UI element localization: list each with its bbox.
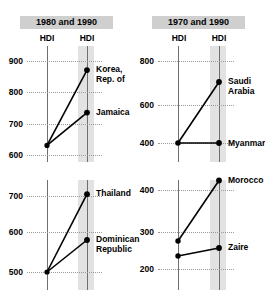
chart-column-right: 1970 and 1990 HDI HDI 800 600 400 Saudi … [132,0,264,298]
series-line-jamaica [47,113,87,146]
panel-top-left: 900 800 700 600 Korea, Rep. of Jamaica [0,46,132,162]
point-thailand-1990 [84,191,90,197]
panel-top-right: 800 600 400 Saudi Arabia Myanmar [132,46,264,162]
point-korea-1990 [84,67,90,73]
axis-header-left-1980: HDI [34,33,60,43]
point-jamaica-1990 [84,110,90,116]
series-label-thailand: Thailand [96,189,131,199]
hdi-slope-chart-figure: 1980 and 1990 HDI HDI 900 800 700 600 [0,0,265,298]
panel-bottom-left: 700 600 500 Thailand Dominican Republic [0,180,132,290]
point-zaire-1970 [175,253,180,258]
point-start-shared [44,143,49,148]
column-title-left: 1980 and 1990 [20,16,113,29]
point-morocco-1990 [216,178,222,184]
point-start-shared [175,140,181,146]
point-start-shared [44,269,49,274]
axis-header-right-1970: HDI [166,33,192,43]
chart-column-left: 1980 and 1990 HDI HDI 900 800 700 600 [0,0,132,298]
column-title-right: 1970 and 1990 [152,16,245,29]
series-line-saudi-arabia [178,82,219,143]
point-saudi-arabia-1990 [216,79,222,85]
axis-header-right-1990: HDI [206,33,232,43]
series-label-korea: Korea, Rep. of [96,65,125,84]
series-label-zaire: Zaire [228,243,248,253]
series-line-thailand [47,194,87,272]
series-line-zaire [178,248,219,256]
series-line-korea [47,70,87,145]
series-label-myanmar: Myanmar [228,139,265,149]
series-line-morocco [178,181,219,242]
series-plot-bottom-right [132,180,264,290]
series-label-morocco: Morocco [228,176,263,186]
point-morocco-1970 [175,238,180,243]
point-myanmar-1990 [216,140,222,146]
series-line-dominican-republic [47,240,87,272]
series-label-jamaica: Jamaica [96,108,130,118]
axis-header-left-1990: HDI [74,33,100,43]
panel-bottom-right: 400 300 200 Morocco Zaire [132,180,264,290]
point-dominican-republic-1990 [84,237,90,243]
series-label-saudi-arabia: Saudi Arabia [228,77,254,96]
point-zaire-1990 [216,245,222,251]
